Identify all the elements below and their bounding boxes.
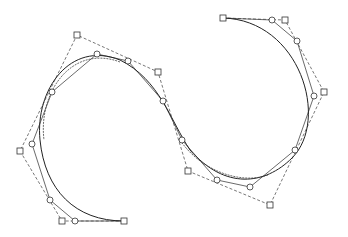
control-point-circle [311, 93, 317, 99]
control-point-square [59, 218, 65, 224]
control-point-circle [160, 98, 166, 104]
approx-curve-dashed [43, 58, 268, 178]
control-point-square [321, 89, 327, 95]
control-point-circle [72, 218, 78, 224]
control-point-square [282, 17, 288, 23]
control-point-circle [47, 197, 53, 203]
control-point-square [185, 168, 191, 174]
control-point-square [220, 15, 226, 21]
control-point-circle [29, 141, 35, 147]
control-point-square [121, 218, 127, 224]
control-point-square [155, 69, 161, 75]
bezier-curve [40, 18, 309, 221]
control-point-square [74, 32, 80, 38]
control-point-circle [269, 17, 275, 23]
control-point-circle [247, 184, 253, 190]
control-point-circle [94, 51, 100, 57]
control-point-circle [214, 177, 220, 183]
control-point-circle [179, 137, 185, 143]
control-point-circle [294, 38, 300, 44]
control-point-square [267, 202, 273, 208]
control-point-circle [49, 89, 55, 95]
control-point-circle [125, 58, 131, 64]
spline-diagram [0, 0, 348, 237]
control-point-circle [292, 147, 298, 153]
control-point-square [17, 148, 23, 154]
